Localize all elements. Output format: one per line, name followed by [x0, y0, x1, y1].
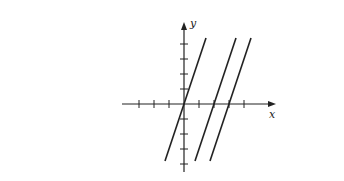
line-1	[165, 38, 206, 161]
x-axis-label: x	[269, 108, 276, 121]
parallel-lines	[165, 38, 251, 161]
coordinate-plot: x y	[0, 0, 344, 181]
y-axis-label: y	[189, 17, 197, 30]
x-axis-arrow-icon	[268, 101, 276, 107]
y-axis-arrow-icon	[181, 22, 187, 30]
